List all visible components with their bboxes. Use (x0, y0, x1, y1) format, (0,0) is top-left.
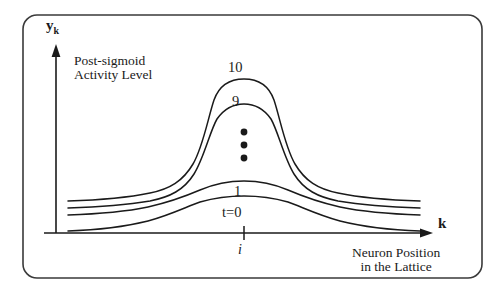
curve-label-t10: 10 (228, 60, 243, 75)
y-axis-caption: Post-sigmoid Activity Level (74, 54, 152, 82)
curve-label-t1: 1 (234, 184, 241, 199)
x-tick-label-i: i (238, 243, 242, 258)
y-axis-label-text: y (46, 17, 54, 33)
y-axis-label: yk (46, 18, 59, 36)
ellipsis-dot (241, 142, 248, 149)
curve-label-t0: t=0 (222, 205, 241, 220)
figure-container: yk k Post-sigmoid Activity Level Neuron … (0, 0, 504, 295)
ellipsis-dots (241, 129, 248, 162)
ellipsis-dot (241, 155, 248, 162)
y-axis (52, 44, 61, 233)
curve-label-t9: 9 (232, 94, 239, 109)
curve-t0 (68, 196, 420, 231)
x-axis-caption: Neuron Position in the Lattice (352, 246, 440, 274)
curve-t10 (68, 79, 420, 201)
x-axis (44, 229, 433, 238)
y-axis-label-subscript: k (54, 25, 60, 36)
ellipsis-dot (241, 129, 248, 136)
x-axis-label: k (438, 216, 446, 232)
